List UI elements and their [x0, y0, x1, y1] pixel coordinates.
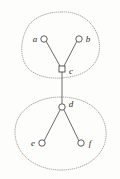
node-f [78, 140, 84, 146]
node-c [59, 66, 65, 72]
node-label-c: c [69, 66, 73, 76]
node-b [76, 36, 82, 42]
node-label-f: f [89, 138, 93, 148]
node-label-b: b [86, 34, 91, 44]
node-label-a: a [33, 34, 38, 44]
node-label-d: d [69, 99, 74, 109]
edge-b-c [64, 41, 77, 66]
node-label-e: e [31, 138, 35, 148]
graph-diagram: a b c d e f [0, 0, 120, 179]
edge-d-e [44, 110, 60, 141]
node-d [59, 104, 65, 110]
edge-d-f [64, 110, 79, 141]
node-a [41, 36, 47, 42]
edge-a-c [46, 41, 60, 66]
diagram-canvas: a b c d e f [0, 0, 120, 179]
node-e [39, 140, 45, 146]
